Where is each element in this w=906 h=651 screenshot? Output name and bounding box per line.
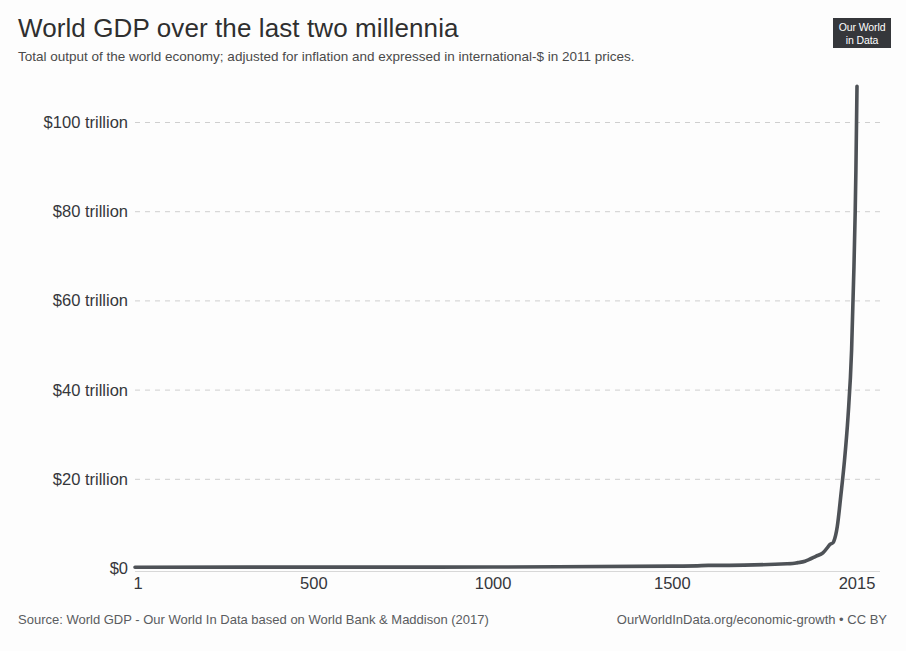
x-tick-label-1000: 1000: [475, 574, 512, 593]
x-tick-label-2015: 2015: [839, 574, 876, 593]
x-axis-tick-labels: 1500100015002015: [0, 0, 906, 651]
x-tick-label-1500: 1500: [654, 574, 691, 593]
license-note[interactable]: OurWorldInData.org/economic-growth • CC …: [617, 612, 891, 627]
chart-footer: Source: World GDP - Our World In Data ba…: [18, 612, 891, 627]
x-tick-label-1: 1: [133, 574, 142, 593]
chart-page: World GDP over the last two millennia To…: [0, 0, 906, 651]
chart-plot-area: $0$20 trillion$40 trillion$60 trillion$8…: [0, 0, 906, 651]
x-tick-label-500: 500: [300, 574, 328, 593]
source-note: Source: World GDP - Our World In Data ba…: [18, 612, 489, 627]
